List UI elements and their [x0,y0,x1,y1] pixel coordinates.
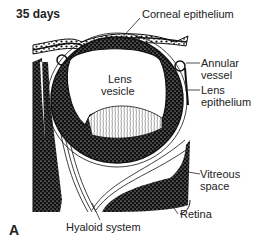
figure-title: 35 days [16,7,60,21]
label-vitreous-space-line1: Vitreous [200,168,240,180]
label-hyaloid-system: Hyaloid system [66,221,141,233]
label-annular-vessel-line2: vessel [201,69,232,81]
label-annular-vessel-line1: Annular [201,57,239,69]
panel-letter: A [9,222,19,238]
label-vitreous-space-line2: space [200,180,229,192]
label-corneal-epithelium: Corneal epithelium [142,8,234,20]
label-lens-epithelium-line2: epithelium [201,96,251,108]
label-lens-vesicle-line2: vesicle [101,85,135,97]
label-lens-vesicle-line1: Lens [108,73,132,85]
label-lens-epithelium-line1: Lens [201,84,225,96]
eye-illustration [0,0,260,243]
label-retina: Retina [180,208,212,220]
